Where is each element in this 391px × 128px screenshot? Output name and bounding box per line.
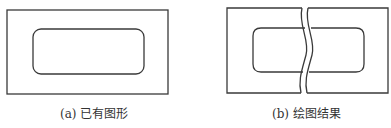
figure-b: [227, 8, 388, 93]
caption-a: (a) 已有图形: [60, 104, 128, 121]
outer-rectangle-right-part: [307, 8, 388, 93]
caption-b-text: 绘图结果: [293, 107, 341, 121]
inner-rounded-rectangle-right-part: [309, 28, 364, 72]
caption-a-label: (a): [60, 107, 77, 121]
caption-b: (b) 绘图结果: [272, 104, 341, 121]
outer-rectangle-left-part: [227, 8, 302, 93]
figure-a: [7, 10, 168, 94]
caption-b-label: (b): [272, 107, 289, 121]
caption-a-text: 已有图形: [80, 107, 128, 121]
inner-rounded-rectangle-left-part: [253, 28, 305, 72]
inner-rounded-rectangle: [33, 29, 144, 74]
